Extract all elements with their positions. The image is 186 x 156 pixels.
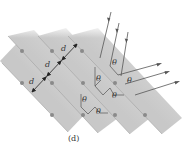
- spacing-label-d: d: [29, 77, 34, 86]
- arrowhead-icon: [165, 71, 171, 75]
- bragg-diffraction-diagram: d d d θ θ θ θ θ θ (d): [0, 0, 186, 156]
- arrowhead-icon: [125, 39, 128, 44]
- crystal-planes: [0, 0, 186, 134]
- atom: [20, 49, 24, 53]
- arrowhead-icon: [175, 81, 181, 85]
- atom: [143, 113, 147, 117]
- atom: [113, 81, 117, 85]
- spacing-label-d: d: [61, 44, 66, 53]
- angle-label-theta: θ: [112, 58, 117, 67]
- atom: [81, 113, 85, 117]
- atom: [50, 81, 54, 85]
- figure-caption: (d): [68, 134, 79, 143]
- atom: [81, 81, 85, 85]
- atom: [50, 113, 54, 117]
- arrowhead-icon: [157, 63, 163, 67]
- spacing-label-d: d: [45, 60, 50, 69]
- atom: [80, 49, 84, 53]
- atom: [50, 49, 54, 53]
- angle-label-theta: θ: [96, 107, 101, 116]
- angle-label-theta: θ: [112, 91, 117, 100]
- angle-label-theta: θ: [127, 76, 132, 85]
- atom: [113, 113, 117, 117]
- angle-label-theta: θ: [96, 74, 101, 83]
- angle-label-theta: θ: [82, 95, 87, 104]
- atom: [20, 81, 24, 85]
